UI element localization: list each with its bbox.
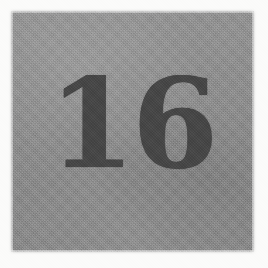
scanned-tone-area	[13, 13, 252, 250]
scanned-page: 16	[0, 0, 268, 268]
